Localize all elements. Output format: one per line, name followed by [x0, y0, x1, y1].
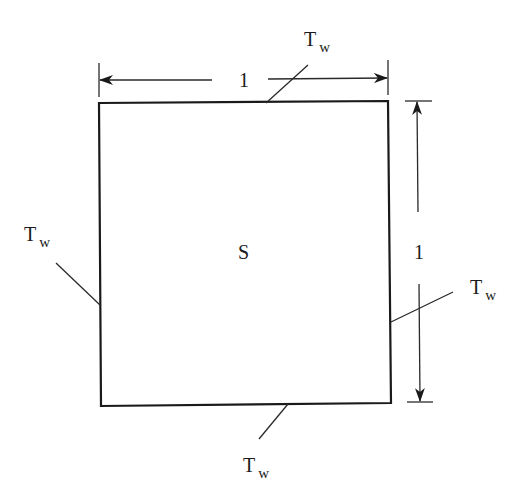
width-dimension: 1 — [99, 60, 388, 97]
height-arrow-down — [419, 284, 420, 401]
height-arrow-up — [417, 102, 418, 212]
width-label: 1 — [239, 69, 249, 91]
boundary-label-top: Tw — [304, 28, 330, 55]
boundary-right: Tw — [391, 276, 496, 322]
square-domain-diagram: S 1 1 Tw Tw Tw T — [0, 0, 513, 501]
boundary-bottom: Tw — [243, 404, 288, 481]
boundary-left: Tw — [24, 223, 100, 305]
leader-right — [391, 292, 453, 322]
region-label: S — [238, 241, 249, 263]
boundary-label-left: Tw — [24, 223, 50, 250]
boundary-top: Tw — [266, 28, 330, 103]
leader-left — [56, 263, 100, 305]
leader-bottom — [259, 404, 288, 439]
height-label: 1 — [414, 241, 424, 263]
width-arrow-right — [268, 78, 387, 79]
boundary-label-bottom: Tw — [243, 454, 269, 481]
leader-top — [266, 65, 308, 103]
height-dimension: 1 — [405, 101, 433, 402]
boundary-label-right: Tw — [470, 276, 496, 303]
